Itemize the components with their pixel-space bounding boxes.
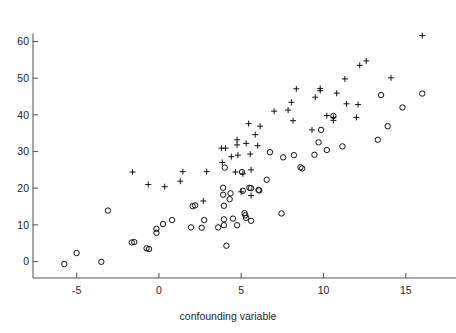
data-point-circle <box>318 127 323 132</box>
data-point-plus <box>312 94 318 100</box>
y-axis-tick-label: 0 <box>23 255 29 267</box>
data-point-plus <box>342 76 348 82</box>
data-point-plus <box>344 101 350 107</box>
data-point-circle <box>215 225 220 230</box>
x-axis-tick-label: 0 <box>156 284 162 296</box>
data-point-circle <box>267 150 272 155</box>
data-point-circle <box>154 230 159 235</box>
data-point-plus <box>290 118 296 124</box>
data-point-plus <box>234 142 240 148</box>
data-point-circle <box>224 243 229 248</box>
data-point-plus <box>238 189 244 195</box>
data-point-circle <box>188 225 193 230</box>
data-point-circle <box>230 216 235 221</box>
data-point-circle <box>316 140 321 145</box>
data-point-plus <box>223 145 229 151</box>
data-point-plus <box>334 90 340 96</box>
data-point-circle <box>312 152 317 157</box>
data-point-plus <box>363 58 369 64</box>
data-point-plus <box>288 99 294 105</box>
y-axis-tick-label: 40 <box>17 109 29 121</box>
y-axis-tick-label: 60 <box>17 35 29 47</box>
data-point-plus <box>145 182 151 188</box>
data-point-circle <box>199 225 204 230</box>
data-point-plus <box>162 184 168 190</box>
data-point-circle <box>420 91 425 96</box>
data-point-plus <box>252 132 258 138</box>
data-point-circle <box>378 92 383 97</box>
data-point-circle <box>264 177 269 182</box>
data-point-circle <box>279 211 284 216</box>
data-point-circle <box>99 259 104 264</box>
y-axis-tick-label: 10 <box>17 219 29 231</box>
data-point-plus <box>180 169 186 175</box>
data-point-circle <box>375 137 380 142</box>
data-point-circle <box>248 218 253 223</box>
data-point-plus <box>228 154 234 160</box>
data-point-plus <box>247 151 253 157</box>
data-point-circle <box>227 196 232 201</box>
data-point-circle <box>221 203 226 208</box>
data-point-circle <box>340 144 345 149</box>
x-axis-title: confounding variable <box>180 310 277 322</box>
data-point-circle <box>221 217 226 222</box>
data-point-plus <box>246 121 252 127</box>
data-point-circle <box>62 261 67 266</box>
series-plus <box>130 33 426 204</box>
data-point-plus <box>235 152 241 158</box>
data-point-plus <box>285 107 291 113</box>
data-point-circle <box>385 124 390 129</box>
data-point-circle <box>220 192 225 197</box>
data-point-plus <box>234 137 240 143</box>
scatter-plot-figure: 0102030405060 -5051015 confounding varia… <box>0 0 456 333</box>
data-point-circle <box>291 152 296 157</box>
data-point-plus <box>271 108 277 114</box>
data-point-plus <box>248 193 254 199</box>
data-point-plus <box>309 127 315 133</box>
data-point-plus <box>353 114 359 120</box>
y-axis-tick-label: 50 <box>17 72 29 84</box>
data-point-plus <box>355 102 361 108</box>
data-point-circle <box>280 155 285 160</box>
x-axis: -5051015 <box>33 273 456 296</box>
data-point-plus <box>293 86 299 92</box>
data-point-plus <box>257 123 263 129</box>
x-axis-tick-label: 5 <box>238 284 244 296</box>
data-point-circle <box>299 166 304 171</box>
y-axis-tick-label: 20 <box>17 182 29 194</box>
series-circle <box>62 91 425 267</box>
x-axis-tick-label: 15 <box>400 284 412 296</box>
data-point-plus <box>419 33 425 39</box>
data-point-plus <box>243 140 249 146</box>
data-point-circle <box>74 250 79 255</box>
data-point-plus <box>324 113 330 119</box>
x-axis-tick-label: 10 <box>318 284 330 296</box>
data-point-plus <box>200 198 206 204</box>
data-point-plus <box>357 62 363 68</box>
data-point-circle <box>221 223 226 228</box>
data-point-plus <box>248 167 254 173</box>
y-axis: 0102030405060 <box>17 34 38 279</box>
y-axis-tick-label: 30 <box>17 145 29 157</box>
data-points-layer <box>62 33 426 267</box>
data-point-plus <box>204 169 210 175</box>
data-point-circle <box>234 223 239 228</box>
data-point-plus <box>130 169 136 175</box>
plot-canvas: 0102030405060 -5051015 confounding varia… <box>0 0 456 333</box>
data-point-circle <box>400 105 405 110</box>
data-point-circle <box>222 165 227 170</box>
data-point-circle <box>105 208 110 213</box>
data-point-circle <box>324 147 329 152</box>
data-point-circle <box>201 217 206 222</box>
data-point-plus <box>177 178 183 184</box>
data-point-circle <box>160 221 165 226</box>
x-axis-tick-label: -5 <box>72 284 81 296</box>
data-point-circle <box>228 191 233 196</box>
data-point-circle <box>220 185 225 190</box>
data-point-plus <box>388 75 394 81</box>
data-point-plus <box>232 169 238 175</box>
data-point-plus <box>255 143 261 149</box>
data-point-circle <box>169 217 174 222</box>
